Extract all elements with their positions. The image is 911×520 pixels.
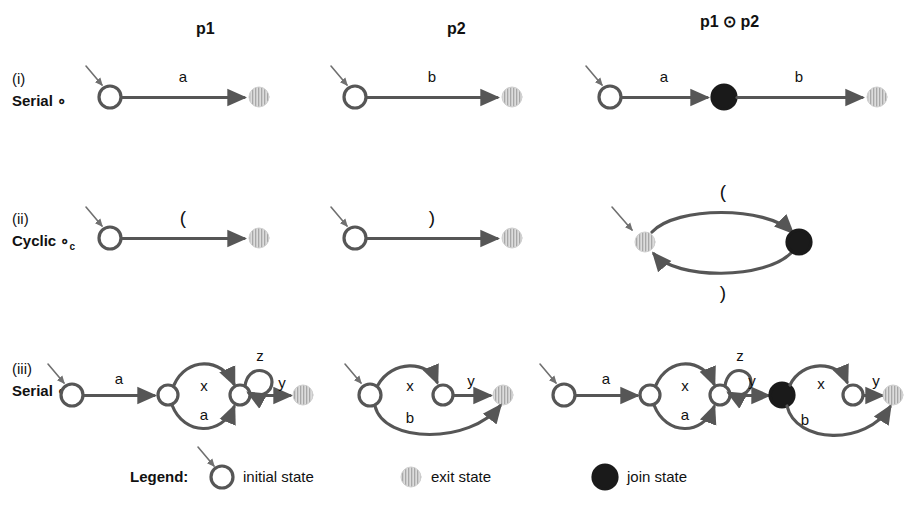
edge-label-row-iii-p2-y: y [461,372,481,389]
edge-label-row-iii-p1-z: z [250,347,270,364]
edge-label-row-iii-p1-a2: a [194,406,214,423]
diagram-row-iii-p2 [345,364,513,435]
diagram-canvas [0,0,911,520]
edge-label-row-iii-composed-y2: y [866,372,886,389]
diagram-row-iii-composed [540,364,903,436]
diagram-row-i-composed [586,66,887,109]
legend-label-join-state: join state [627,468,687,485]
edge-label-row-i-p1-a: a [173,68,193,85]
edge-label-row-ii-p1-open: ( [173,208,193,227]
legend-label-initial-state: initial state [243,468,314,485]
edge-label-row-iii-p1-x: x [194,377,214,394]
edge-label-row-iii-composed-b: b [795,411,815,428]
edge-label-row-iii-composed-a2: a [675,406,695,423]
edge-label-row-iii-composed-y1: y [742,372,762,389]
edge-label-row-iii-p2-b: b [400,409,420,426]
edge-label-row-ii-p2-close: ) [422,208,442,227]
edge-label-row-iii-composed-z: z [730,347,750,364]
edge-label-row-i-p2-b: b [422,68,442,85]
diagram-row-ii-composed [612,207,811,273]
edge-label-row-iii-composed-x2: x [811,375,831,392]
edge-label-row-iii-composed-a1: a [596,370,616,387]
edge-label-row-i-composed-a: a [654,68,674,85]
automata-composition-figure: p1 p2 p1 ⊙ p2 (i) Serial ∘ (ii) Cyclic ∘… [0,0,911,520]
edge-label-row-iii-p2-x: x [400,377,420,394]
edge-label-row-i-composed-b: b [789,68,809,85]
edge-label-row-iii-p1-y: y [272,374,292,391]
edge-label-row-ii-composed-open: ( [713,182,733,201]
legend-label-exit-state: exit state [431,468,491,485]
edge-label-row-ii-composed-close: ) [713,283,733,302]
edge-label-row-iii-composed-x1: x [675,377,695,394]
edge-label-row-iii-p1-a1: a [109,370,129,387]
legend-title: Legend: [130,468,188,485]
